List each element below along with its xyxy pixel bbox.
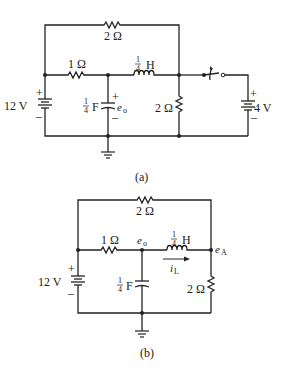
current-arrow-icon <box>184 257 190 262</box>
inductor-unit-a: H <box>146 58 155 72</box>
series-resistor-label-a: 1 Ω <box>68 57 86 71</box>
node-ea-label: e <box>215 243 220 255</box>
caption-a: (a) <box>135 170 148 184</box>
svg-text:4: 4 <box>172 239 176 248</box>
svg-text:–: – <box>250 110 258 124</box>
svg-text:o: o <box>123 106 127 115</box>
battery-12v-b <box>71 276 85 285</box>
left-source-label-a: 12 V <box>4 99 28 113</box>
svg-text:+: + <box>36 86 43 100</box>
circuit-figure: 2 Ω 1 Ω 1 4 H + 4 V – <box>0 0 285 370</box>
svg-text:–: – <box>111 110 119 124</box>
top-resistor-label-b: 2 Ω <box>136 204 154 218</box>
shunt-resistor-a <box>176 75 182 136</box>
shunt-resistor-b <box>208 250 214 313</box>
svg-text:–: – <box>67 286 75 300</box>
svg-text:1: 1 <box>118 276 122 285</box>
battery-4v <box>241 101 255 110</box>
left-source-label-b: 12 V <box>38 275 62 289</box>
shunt-resistor-label-a: 2 Ω <box>155 101 173 115</box>
svg-text:1: 1 <box>84 97 88 106</box>
capacitor-label-a: F <box>92 100 99 114</box>
svg-text:+: + <box>68 262 75 276</box>
caption-b: (b) <box>140 346 154 360</box>
svg-text:+: + <box>250 87 257 101</box>
inductor-den-a: 4 <box>136 64 140 73</box>
svg-text:4: 4 <box>84 106 88 115</box>
svg-text:A: A <box>221 248 227 257</box>
inductor-unit-b: H <box>182 233 191 247</box>
circuit-b: 2 Ω 1 Ω e o 1 4 H i L e A + 12 V – <box>38 197 227 360</box>
svg-text:L: L <box>174 267 179 276</box>
ground-icon-b <box>135 331 149 337</box>
battery-12v-a <box>38 99 52 108</box>
shunt-resistor-label-b: 2 Ω <box>187 282 205 296</box>
switch-blade-a <box>204 73 219 75</box>
series-resistor-a <box>45 72 134 78</box>
capacitor-label-b: F <box>126 279 133 293</box>
svg-text:1: 1 <box>172 230 176 239</box>
inductor-current-label: i <box>170 262 173 274</box>
svg-text:o: o <box>143 239 147 248</box>
series-resistor-b <box>78 247 167 253</box>
inductor-num-a: 1 <box>136 55 140 64</box>
ground-icon-a <box>101 152 115 158</box>
top-resistor-label-a: 2 Ω <box>104 29 122 43</box>
node-eo-label: e <box>137 234 142 246</box>
circuit-a: 2 Ω 1 Ω 1 4 H + 4 V – <box>4 22 272 184</box>
series-resistor-label-b: 1 Ω <box>101 233 119 247</box>
svg-text:–: – <box>35 109 43 123</box>
svg-text:4: 4 <box>118 285 122 294</box>
inductor-a <box>134 71 179 76</box>
